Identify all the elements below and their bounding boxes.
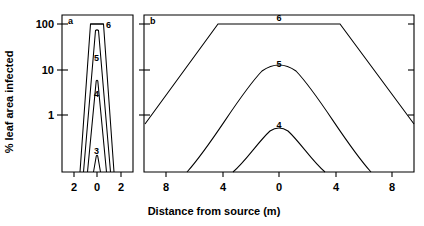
x-axis-title: Distance from source (m) <box>148 205 281 217</box>
panel-a-curve-label-6: 6 <box>106 20 111 30</box>
panel-b: 8 4 0 4 8 b 6 5 4 <box>139 13 414 193</box>
panel-b-curve-label-4: 4 <box>276 120 281 130</box>
panel-a-curve-label-3: 3 <box>94 146 99 156</box>
panel-b-curve-label-6: 6 <box>276 13 281 23</box>
panel-b-xtick-label-3: 4 <box>333 181 340 193</box>
panel-a-curve-3 <box>94 155 101 172</box>
panel-b-curve-4 <box>233 128 325 172</box>
panel-b-curve-label-5: 5 <box>276 59 281 69</box>
y-axis-title: % leaf area infected <box>3 51 15 154</box>
panel-b-curve-5 <box>187 65 371 172</box>
panel-b-xtick-label-2: 0 <box>276 181 282 193</box>
panel-a-xtick-label-1: 0 <box>94 181 100 193</box>
panel-b-curve-6 <box>145 24 414 124</box>
panel-b-frame <box>144 15 414 172</box>
panel-a-xtick-label-2: 2 <box>118 181 124 193</box>
panel-b-xtick-label-1: 4 <box>220 181 227 193</box>
figure-container: % leaf area infected 100 10 1 2 0 2 <box>0 0 424 226</box>
panel-b-xtick-label-4: 8 <box>389 181 395 193</box>
y-tick-label-10: 10 <box>42 64 54 76</box>
panel-a-letter: a <box>68 16 74 26</box>
panel-b-letter: b <box>150 16 156 26</box>
panel-a-xtick-label-0: 2 <box>71 181 77 193</box>
disease-gradient-figure: % leaf area infected 100 10 1 2 0 2 <box>0 0 424 226</box>
y-tick-label-1: 1 <box>48 109 54 121</box>
panel-b-xtick-label-0: 8 <box>163 181 169 193</box>
panel-a-curve-label-4: 4 <box>94 89 99 99</box>
y-tick-label-100: 100 <box>36 18 54 30</box>
panel-a: 2 0 2 a 6 5 4 3 <box>57 15 133 193</box>
panel-a-curve-label-5: 5 <box>94 53 99 63</box>
